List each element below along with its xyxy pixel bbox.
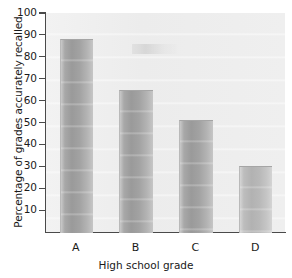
- y-axis-tick-label: 60: [3, 95, 37, 106]
- bar-texture: [180, 121, 213, 233]
- bar-b: [119, 90, 153, 233]
- x-axis-tick-label-c: C: [165, 241, 225, 254]
- y-axis-tick: [39, 210, 45, 211]
- y-axis-tick: [39, 56, 45, 57]
- y-axis-tick: [39, 122, 45, 123]
- y-axis-tick-label: 90: [3, 29, 37, 40]
- bar-texture: [120, 91, 153, 233]
- y-axis-tick: [39, 12, 45, 13]
- y-axis-tick-label: 100: [3, 7, 37, 18]
- y-axis-spine: [45, 12, 46, 233]
- x-axis-tick-label-d: D: [225, 241, 285, 254]
- bar-texture: [61, 40, 94, 233]
- y-axis-tick-label: 40: [3, 138, 37, 149]
- x-axis-title: High school grade: [0, 259, 292, 271]
- y-axis-tick-label: 80: [3, 51, 37, 62]
- x-axis-tick-label-b: B: [106, 241, 166, 254]
- y-axis-tick-label: 10: [3, 204, 37, 215]
- bar-d: [239, 166, 273, 233]
- y-axis-tick: [39, 144, 45, 145]
- x-axis-tick-label-a: A: [46, 241, 106, 254]
- y-axis-tick-label: 20: [3, 182, 37, 193]
- y-axis-tick: [39, 100, 45, 101]
- y-axis-tick: [39, 166, 45, 167]
- y-axis-tick: [39, 34, 45, 35]
- scan-artifact: [132, 44, 178, 54]
- y-axis-tick-label: 50: [3, 117, 37, 128]
- bar-c: [179, 120, 213, 233]
- y-axis-tick-label: 70: [3, 73, 37, 84]
- bar-a: [60, 39, 94, 233]
- bar-chart-figure: Percentage of grades accurately recalled…: [0, 0, 292, 278]
- y-axis-tick: [39, 78, 45, 79]
- y-axis-tick-label: 30: [3, 160, 37, 171]
- y-axis-tick: [39, 188, 45, 189]
- bar-texture: [240, 167, 273, 233]
